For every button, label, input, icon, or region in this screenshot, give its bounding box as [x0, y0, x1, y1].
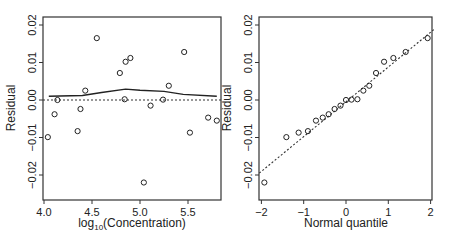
data-point	[206, 115, 211, 120]
y-tick-label: 0.00	[26, 89, 38, 110]
data-point	[182, 49, 187, 54]
y-axis-label: Residual	[4, 85, 18, 132]
data-points	[45, 36, 219, 186]
y-tick-label: −0.01	[26, 124, 38, 152]
data-point	[117, 70, 122, 75]
data-points	[262, 36, 430, 186]
qq-reference-line	[259, 29, 435, 173]
data-point	[166, 83, 171, 88]
data-point	[355, 97, 360, 102]
y-tick-label: −0.01	[242, 124, 254, 152]
y-tick-label: 0.02	[26, 14, 38, 35]
normal-qq-plot: 0.020.010.00−0.01−0.02 −2−1012 Residual …	[220, 14, 435, 230]
data-point	[403, 49, 408, 54]
data-point	[83, 88, 88, 93]
data-point	[148, 103, 153, 108]
data-point	[78, 106, 83, 111]
data-point	[52, 112, 57, 117]
data-point	[425, 36, 430, 41]
data-point	[381, 59, 386, 64]
x-tick-label: 2	[428, 206, 434, 218]
data-point	[361, 88, 366, 93]
data-point	[262, 180, 267, 185]
data-point	[45, 135, 50, 140]
data-point	[373, 70, 378, 75]
data-point	[320, 115, 325, 120]
y-tick-label: −0.02	[26, 161, 38, 189]
x-axis-label: Normal quantile	[304, 216, 388, 230]
x-tick-label: −2	[255, 206, 268, 218]
data-point	[123, 59, 128, 64]
plot-frame	[259, 17, 432, 200]
x-axis-label: log10(Concentration)	[78, 216, 186, 232]
data-point	[187, 130, 192, 135]
data-point	[75, 129, 80, 134]
y-tick-label: 0.00	[242, 89, 254, 110]
x-tick-label: 4.0	[36, 206, 51, 218]
data-point	[313, 118, 318, 123]
figure: 0.020.010.00−0.01−0.02 4.04.55.05.5 Resi…	[0, 0, 449, 242]
data-point	[122, 97, 127, 102]
data-point	[214, 118, 219, 123]
y-axis: 0.020.010.00−0.01−0.02	[26, 14, 43, 189]
data-point	[296, 130, 301, 135]
smooth-trend-line	[49, 89, 217, 96]
data-point	[141, 180, 146, 185]
data-point	[94, 36, 99, 41]
y-tick-label: 0.02	[242, 14, 254, 35]
residual-vs-concentration-plot: 0.020.010.00−0.01−0.02 4.04.55.05.5 Resi…	[4, 14, 221, 232]
data-point	[367, 83, 372, 88]
plot-frame	[43, 17, 221, 200]
data-point	[391, 55, 396, 60]
y-axis: 0.020.010.00−0.01−0.02	[242, 14, 259, 189]
data-point	[284, 135, 289, 140]
y-axis-label: Residual	[220, 85, 234, 132]
y-tick-label: 0.01	[242, 52, 254, 73]
y-tick-label: −0.02	[242, 161, 254, 189]
data-point	[349, 97, 354, 102]
data-point	[128, 55, 133, 60]
y-tick-label: 0.01	[26, 52, 38, 73]
